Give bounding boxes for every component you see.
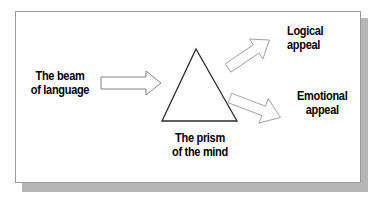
prism-label-line1: The prism: [158, 131, 242, 145]
logical-appeal-label: Logical appeal: [287, 24, 350, 52]
logical-arrow-group: [221, 30, 276, 78]
prism-label-line2: of the mind: [158, 145, 242, 159]
prism-label: The prism of the mind: [158, 131, 242, 159]
diagram-root: The beam of language The prism of the mi…: [0, 0, 380, 204]
emotional-appeal-line1: Emotional: [287, 89, 357, 103]
beam-label-line2: of language: [23, 83, 97, 97]
logical-appeal-line1: Logical: [287, 24, 350, 38]
emotional-appeal-label: Emotional appeal: [287, 89, 357, 117]
emotional-arrow-group: [225, 86, 285, 130]
emotional-arrow: [225, 86, 285, 130]
logical-appeal-line2: appeal: [287, 38, 350, 52]
emotional-appeal-line2: appeal: [287, 103, 357, 117]
beam-label-line1: The beam: [23, 69, 97, 83]
prism-triangle: [162, 49, 237, 121]
beam-arrow: [101, 71, 161, 95]
beam-label: The beam of language: [23, 69, 97, 97]
logical-arrow: [221, 30, 276, 78]
